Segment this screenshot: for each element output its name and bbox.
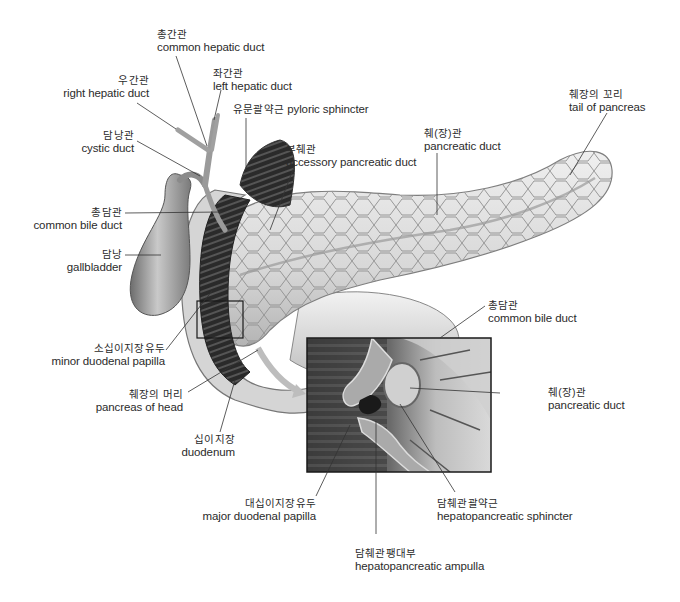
label-en: pancreas of head [96, 401, 183, 414]
label-ko: 좌간관 [213, 67, 292, 80]
label-en: duodenum [181, 446, 235, 459]
label-ko: 담췌관괄약근 [437, 497, 573, 510]
label-en: pancreatic duct [548, 399, 625, 412]
label-en: pyloric sphincter [287, 103, 368, 115]
label-pyloric-sphincter: 유문괄약근 pyloric sphincter [233, 103, 369, 116]
label-en: accessory pancreatic duct [286, 156, 416, 169]
label-en: common hepatic duct [157, 41, 264, 54]
label-ko: 총간관 [157, 28, 264, 41]
label-major-duodenal-papilla: 대십이지장유두 major duodenal papilla [202, 497, 316, 523]
label-ko: 유문괄약근 [233, 103, 284, 115]
label-left-hepatic-duct: 좌간관 left hepatic duct [213, 67, 292, 93]
label-en: common bile duct [33, 219, 122, 232]
label-tail-of-pancreas: 췌장의 꼬리 tail of pancreas [569, 88, 645, 114]
label-ko: 총담관 [33, 206, 122, 219]
label-en: tail of pancreas [569, 101, 645, 114]
label-ko: 췌장의 머리 [96, 388, 183, 401]
label-ko: 췌(장)관 [548, 386, 625, 399]
label-ko: 담낭 [67, 248, 122, 261]
label-pancreatic-duct-inset: 췌(장)관 pancreatic duct [548, 386, 625, 412]
label-ko: 담낭관 [81, 129, 134, 142]
label-minor-duodenal-papilla: 소십이지장유두 minor duodenal papilla [51, 342, 165, 368]
label-en: hepatopancreatic ampulla [355, 560, 484, 573]
label-pancreatic-duct-top: 췌(장)관 pancreatic duct [424, 127, 501, 153]
label-duodenum: 십이지장 duodenum [181, 433, 235, 459]
label-ko: 대십이지장유두 [202, 497, 316, 510]
label-en: right hepatic duct [63, 87, 149, 100]
label-gallbladder: 담낭 gallbladder [67, 248, 122, 274]
label-en: gallbladder [67, 261, 122, 274]
label-ko: 우간관 [63, 74, 149, 87]
label-ko: 총담관 [488, 299, 577, 312]
label-ko: 십이지장 [181, 433, 235, 446]
label-ko: 췌(장)관 [424, 127, 501, 140]
label-accessory-pancreatic-duct: 부췌관 accessory pancreatic duct [286, 143, 416, 169]
label-ko: 췌장의 꼬리 [569, 88, 645, 101]
label-common-bile-duct-left: 총담관 common bile duct [33, 206, 122, 232]
anatomy-diagram: 총간관 common hepatic duct 좌간관 left hepatic… [0, 0, 680, 602]
label-cystic-duct: 담낭관 cystic duct [81, 129, 134, 155]
label-en: hepatopancreatic sphincter [437, 510, 573, 523]
label-en: left hepatic duct [213, 80, 292, 93]
label-ko: 부췌관 [286, 143, 416, 156]
label-en: minor duodenal papilla [51, 355, 165, 368]
label-ko: 소십이지장유두 [51, 342, 165, 355]
label-ko: 담췌관팽대부 [355, 547, 484, 560]
label-common-bile-duct-inset: 총담관 common bile duct [488, 299, 577, 325]
label-en: pancreatic duct [424, 140, 501, 153]
label-right-hepatic-duct: 우간관 right hepatic duct [63, 74, 149, 100]
label-en: cystic duct [81, 142, 134, 155]
label-hepatopancreatic-ampulla: 담췌관팽대부 hepatopancreatic ampulla [355, 547, 484, 573]
label-pancreas-of-head: 췌장의 머리 pancreas of head [96, 388, 183, 414]
label-en: common bile duct [488, 312, 577, 325]
label-common-hepatic-duct: 총간관 common hepatic duct [157, 28, 264, 54]
label-hepatopancreatic-sphincter: 담췌관괄약근 hepatopancreatic sphincter [437, 497, 573, 523]
label-en: major duodenal papilla [202, 510, 316, 523]
